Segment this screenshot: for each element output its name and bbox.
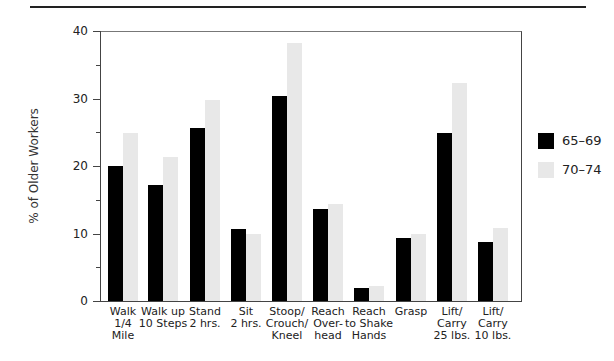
y-tick [93, 99, 101, 100]
legend-label: 65–69 [562, 133, 602, 148]
legend-item-70-74: 70–74 [538, 155, 602, 184]
y-tick [93, 234, 101, 235]
bar-65–69 [148, 185, 163, 301]
y-tick [96, 132, 101, 133]
bar-65–69 [396, 238, 411, 301]
bar-65–69 [190, 128, 205, 301]
x-tick-label: Lift/ Carry 10 lbs. [468, 306, 518, 342]
header-rule [30, 6, 586, 8]
bar-70–74 [287, 43, 302, 301]
y-tick [96, 65, 101, 66]
bar-65–69 [272, 96, 287, 301]
y-tick-label: 0 [58, 294, 88, 308]
y-tick-label: 30 [58, 92, 88, 106]
legend: 65–69 70–74 [538, 126, 602, 184]
bar-65–69 [437, 133, 452, 301]
bar-70–74 [123, 133, 138, 301]
bar-70–74 [246, 234, 261, 301]
y-tick [93, 166, 101, 167]
bar-65–69 [231, 229, 246, 301]
bar-70–74 [452, 83, 467, 301]
legend-swatch-65-69 [538, 133, 554, 149]
bar-70–74 [369, 286, 384, 301]
bar-70–74 [411, 234, 426, 302]
y-tick-label: 40 [58, 24, 88, 38]
bar-65–69 [313, 209, 328, 301]
y-tick-label: 10 [58, 227, 88, 241]
bar-70–74 [205, 100, 220, 301]
bar-65–69 [354, 288, 369, 301]
legend-item-65-69: 65–69 [538, 126, 602, 155]
legend-label: 70–74 [562, 162, 602, 177]
plot-area [100, 31, 522, 302]
bar-65–69 [108, 166, 123, 301]
bar-65–69 [478, 242, 493, 301]
y-tick [93, 301, 101, 302]
y-tick [96, 267, 101, 268]
y-axis-title: % of Older Workers [27, 108, 41, 224]
bar-70–74 [163, 157, 178, 301]
y-tick [93, 31, 101, 32]
y-tick-label: 20 [58, 159, 88, 173]
legend-swatch-70-74 [538, 162, 554, 178]
y-tick [96, 200, 101, 201]
bar-70–74 [493, 228, 508, 301]
bar-70–74 [328, 204, 343, 301]
